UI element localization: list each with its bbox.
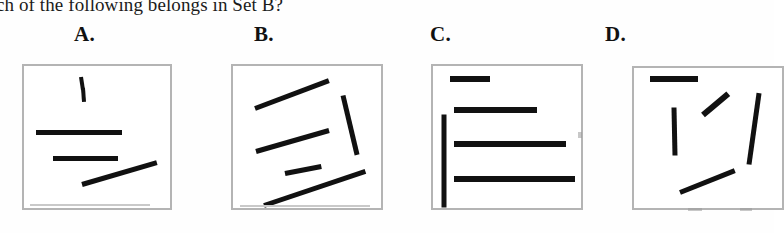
scan-artifact-bottom-b [240,205,370,207]
bottom-long-diagonal-line [263,169,366,208]
short-vertical-line-lower [81,88,86,102]
option-label-c: C. [430,22,451,47]
steep-diagonal-line-left [701,92,730,118]
scan-artifact-edge-c [578,132,582,138]
option-box-c-figure [433,66,581,208]
option-box-d-figure [634,68,782,208]
short-horizontal-line [450,76,490,82]
option-box-a[interactable] [22,64,172,210]
top-long-diagonal-line [254,78,330,111]
vertical-line [672,107,678,155]
right-steep-diagonal-line [341,94,360,154]
option-box-b[interactable] [231,64,383,210]
scan-artifact-bottom-d [688,208,702,211]
medium-horizontal-line [53,156,118,161]
long-horizontal-line [454,141,566,147]
bottom-rising-diagonal-line [679,168,736,195]
option-box-d[interactable] [632,66,784,210]
scan-artifact-bottom-a [30,204,150,206]
short-diagonal-line [285,164,322,176]
option-box-b-figure [233,66,381,208]
medium-horizontal-line [454,107,537,113]
option-box-a-figure [24,66,170,208]
longest-horizontal-line [454,176,575,182]
option-label-d: D. [605,22,626,47]
long-vertical-line [442,114,447,207]
steep-diagonal-line-right [747,93,762,165]
top-horizontal-line [650,76,698,82]
long-horizontal-line [36,130,122,135]
option-box-c[interactable] [431,64,583,210]
option-label-b: B. [254,22,274,47]
option-label-a: A. [74,22,95,47]
rising-diagonal-line [81,160,157,187]
question-prompt: ch of the following belongs in Set B? [0,0,283,16]
scan-artifact-bottom-d2 [740,208,752,211]
middle-diagonal-line [255,128,329,154]
